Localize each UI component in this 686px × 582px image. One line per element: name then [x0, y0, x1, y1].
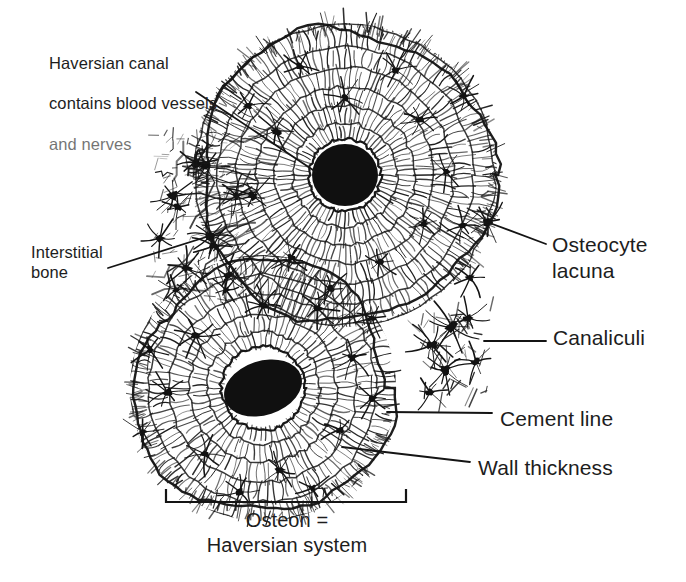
label-wall-thickness: Wall thickness: [478, 455, 613, 481]
label-interstitial-bone: Interstitial bone: [31, 242, 103, 282]
label-haversian-line-1: Haversian canal: [49, 53, 217, 73]
label-canaliculi: Canaliculi: [553, 325, 645, 351]
figure-canvas: Haversian canal contains blood vessels a…: [0, 0, 686, 582]
label-osteocyte-lacuna: Osteocyte lacuna: [552, 232, 647, 283]
label-osteon-caption: Osteon = Haversian system: [187, 508, 387, 558]
haversian-canal-upper: [312, 144, 378, 206]
label-haversian-canal: Haversian canal contains blood vessels a…: [49, 33, 217, 174]
label-cement-line: Cement line: [500, 406, 613, 432]
leader-cement-line: [387, 412, 492, 413]
label-haversian-line-2: contains blood vessels: [49, 93, 217, 113]
label-haversian-line-3: and nerves: [49, 134, 217, 154]
